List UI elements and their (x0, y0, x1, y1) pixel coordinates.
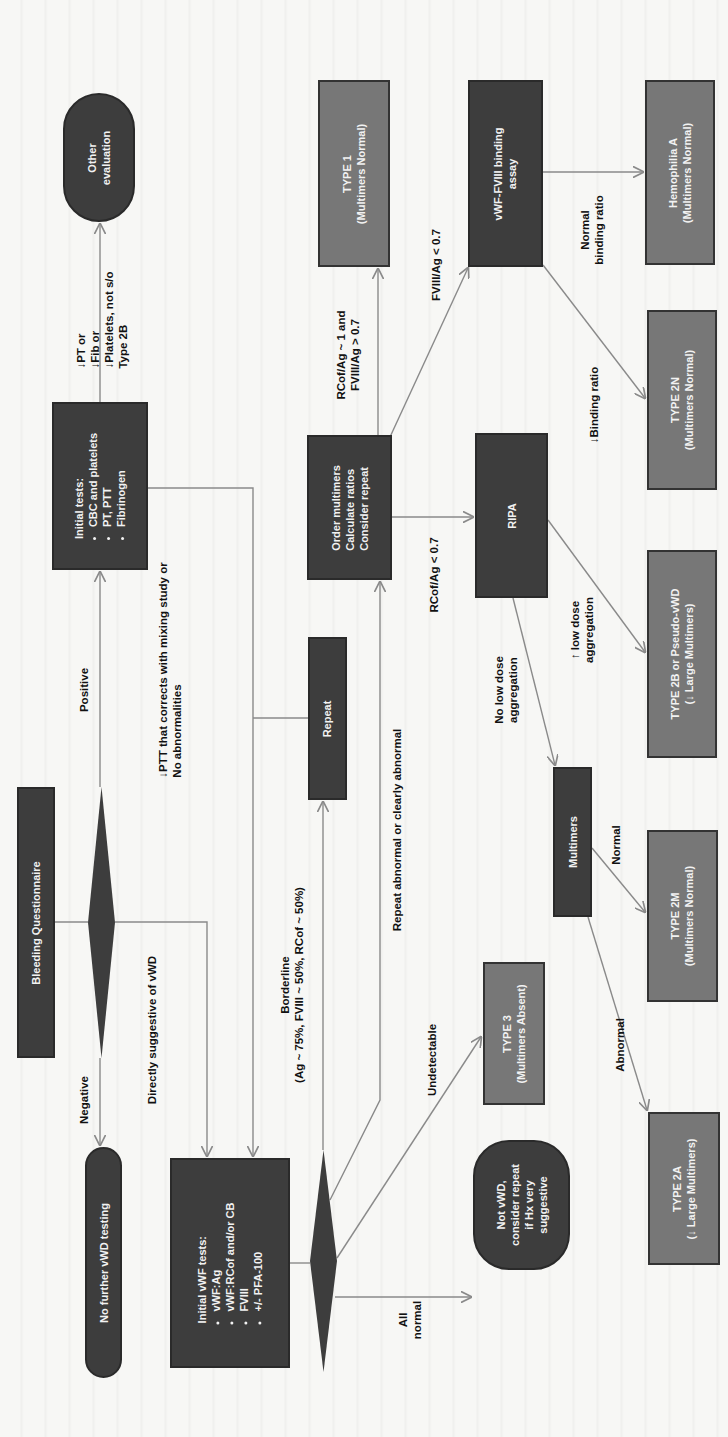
not-vwd-line4: suggestive (535, 1164, 549, 1246)
ratio-normal-line2: FVIII/Ag > 0.7 (348, 310, 362, 399)
all-normal-line1: All (396, 1301, 410, 1339)
normal-binding-line2: binding ratio (592, 195, 606, 265)
initial-vwf-tests-box: Initial vWF tests: vWF:Ag vWF:RCof and/o… (170, 1158, 290, 1368)
initial-vwf-tests-item: vWF:Ag (209, 1203, 223, 1312)
type2m-line2: (Multimers Normal) (683, 866, 697, 966)
not-vwd-terminal: Not vWD, consider repeat if Hx very sugg… (473, 1140, 570, 1270)
all-normal-line2: normal (410, 1301, 424, 1339)
repeat-box: Repeat (308, 637, 347, 800)
edge-label-high-low-dose: ↑ low dose aggregation (560, 580, 604, 680)
initial-tests-item: CBC and platelets (86, 433, 100, 527)
initial-tests-item: Fibrinogen (114, 433, 128, 527)
order-multimers-box: Order multimers Calculate ratios Conside… (307, 435, 392, 580)
hemophilia-a-line2: (Multimers Normal) (680, 122, 694, 222)
edge-label-rcof-ag-low: RCof/Ag < 0.7 (422, 520, 446, 630)
type2n-outcome-box: TYPE 2N (Multimers Normal) (647, 310, 717, 490)
ptt-corrects-line1: ↓PTT that corrects with mixing study or (156, 562, 170, 777)
type3-outcome-box: TYPE 3 (Multimers Absent) (483, 962, 545, 1105)
other-evaluation-line1: Other (85, 130, 99, 184)
abnormal-initial-line3: ↓Platelets, not s/o (102, 271, 116, 368)
not-vwd-line1: Not vWD, (493, 1164, 507, 1246)
order-multimers-line3: Consider repeat (357, 465, 371, 551)
multimers-label: Multimers (566, 816, 580, 868)
initial-vwf-tests-item: FVIII (237, 1203, 251, 1312)
order-multimers-line1: Order multimers (329, 465, 343, 551)
initial-vwf-tests-item: vWF:RCof and/or CB (223, 1203, 237, 1312)
initial-tests-box: Initial tests: CBC and platelets PT, PTT… (52, 402, 148, 570)
abnormal-initial-line2: ↓Fib or (88, 271, 102, 368)
edge-label-ratio-normal: RCof/Ag ~ 1 and FVIII/Ag > 0.7 (326, 290, 370, 420)
hemophilia-a-line1: Hemophilia A (666, 122, 680, 222)
borderline-line1: Borderline (278, 887, 292, 1083)
type1-line1: TYPE 1 (340, 123, 354, 223)
high-low-dose-line2: aggregation (582, 597, 596, 663)
edge-label-ptt-corrects: ↓PTT that corrects with mixing study or … (150, 520, 190, 820)
type2a-outcome-box: TYPE 2A (↓ Large Multimers) (648, 1112, 720, 1265)
no-low-dose-line1: No low dose (492, 656, 506, 724)
edge-label-all-normal: All normal (390, 1290, 430, 1350)
type2n-line2: (Multimers Normal) (682, 350, 696, 450)
no-further-testing-terminal: No further vWD testing (85, 1147, 122, 1378)
type2b-line2: (↓ Large Multimers) (682, 589, 696, 720)
type2b-line1: TYPE 2B or Pseudo-vWD (668, 589, 682, 720)
ratio-normal-line1: RCof/Ag ~ 1 and (334, 310, 348, 399)
type1-outcome-box: TYPE 1 (Multimers Normal) (318, 80, 390, 267)
type3-line1: TYPE 3 (500, 984, 514, 1083)
edge-label-directly-suggestive: Directly suggestive of vWD (140, 930, 164, 1130)
hemophilia-a-outcome-box: Hemophilia A (Multimers Normal) (645, 80, 715, 265)
initial-vwf-tests-item: +/- PFA-100 (251, 1203, 265, 1312)
vwf-fviii-binding-line1: vWF-FVIII binding (492, 127, 506, 220)
not-vwd-line2: consider repeat (507, 1164, 521, 1246)
vwf-fviii-binding-line2: assay (506, 127, 520, 220)
bleeding-questionnaire-label: Bleeding Questionnaire (29, 861, 43, 984)
abnormal-initial-line4: Type 2B (116, 271, 130, 368)
type3-line2: (Multimers Absent) (514, 984, 528, 1083)
no-low-dose-line2: aggregation (506, 656, 520, 724)
edge-label-multimers-abnormal: Abnormal (608, 1000, 632, 1090)
type2n-line1: TYPE 2N (668, 350, 682, 450)
type2b-outcome-box: TYPE 2B or Pseudo-vWD (↓ Large Multimers… (647, 550, 717, 758)
bleeding-questionnaire-box: Bleeding Questionnaire (17, 787, 55, 1058)
abnormal-initial-line1: ↓PT or (74, 271, 88, 368)
edge-label-abnormal-initial: ↓PT or ↓Fib or ↓Platelets, not s/o Type … (62, 240, 142, 400)
edge-label-borderline: Borderline (Ag ~ 75%, FVIII ~ 50%, RCof … (272, 860, 312, 1110)
edge-label-normal-binding: Normal binding ratio (570, 180, 614, 280)
high-low-dose-line1: ↑ low dose (568, 597, 582, 663)
other-evaluation-terminal: Other evaluation (63, 93, 135, 222)
type2m-outcome-box: TYPE 2M (Multimers Normal) (647, 830, 718, 1002)
other-evaluation-line2: evaluation (99, 130, 113, 184)
order-multimers-line2: Calculate ratios (343, 465, 357, 551)
vwf-fviii-binding-box: vWF-FVIII binding assay (468, 80, 543, 267)
edge-label-multimers-normal: Normal (604, 810, 628, 880)
type1-line2: (Multimers Normal) (354, 123, 368, 223)
ripa-label: RIPA (505, 503, 519, 528)
edge-label-negative: Negative (72, 1060, 96, 1140)
edge-label-positive: Positive (72, 630, 96, 750)
normal-binding-line1: Normal (578, 195, 592, 265)
edge-label-fviii-ag-low: FVIII/Ag < 0.7 (424, 210, 448, 320)
initial-tests-title: Initial tests: (72, 433, 86, 539)
type2a-line2: (↓ Large Multimers) (684, 1138, 698, 1239)
type2a-line1: TYPE 2A (670, 1138, 684, 1239)
edge-label-repeat-abnormal: Repeat abnormal or clearly abnormal (385, 660, 409, 1000)
initial-tests-item: PT, PTT (100, 433, 114, 527)
edge-label-undetectable: Undetectable (420, 1000, 444, 1120)
edge-label-low-binding: ↓Binding ratio (582, 350, 606, 460)
ripa-box: RIPA (475, 433, 548, 598)
edge-label-no-low-dose: No low dose aggregation (484, 640, 528, 740)
ptt-corrects-line2: No abnormalities (170, 562, 184, 777)
initial-vwf-tests-title: Initial vWF tests: (195, 1203, 209, 1324)
not-vwd-line3: if Hx very (521, 1164, 535, 1246)
multimers-box: Multimers (553, 767, 592, 917)
no-further-testing-label: No further vWD testing (97, 1203, 111, 1323)
repeat-label: Repeat (321, 700, 335, 737)
type2m-line1: TYPE 2M (669, 866, 683, 966)
borderline-line2: (Ag ~ 75%, FVIII ~ 50%, RCof ~ 50%) (292, 887, 306, 1083)
